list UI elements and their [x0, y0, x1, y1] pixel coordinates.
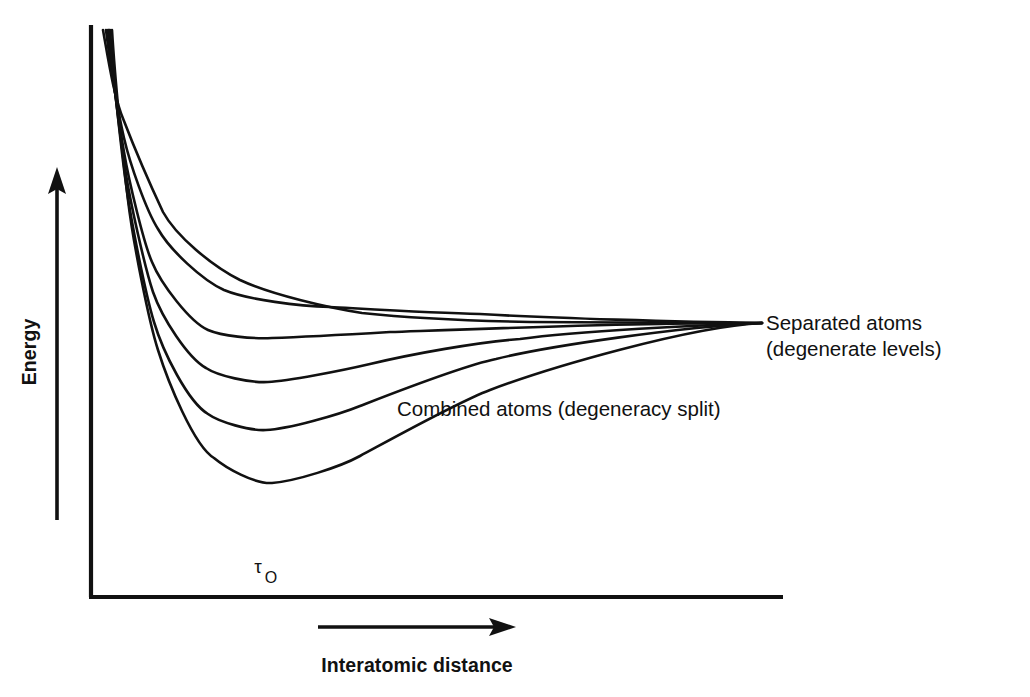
curve-level-1 — [103, 30, 762, 323]
curve-level-3 — [108, 30, 762, 338]
potential-energy-diagram: Energy Interatomic distance τ O Separate… — [0, 0, 1030, 697]
figure-page: Energy Interatomic distance τ O Separate… — [0, 0, 1030, 697]
separated-atoms-annotation: Separated atoms (degenerate levels) — [766, 311, 942, 360]
tau-subscript: O — [265, 569, 277, 586]
tau-zero-tick-label: τ O — [254, 556, 277, 586]
energy-axis-label: Energy — [18, 319, 40, 386]
separated-atoms-line-1: Separated atoms — [766, 311, 922, 334]
interatomic-distance-axis-label: Interatomic distance — [321, 654, 513, 676]
energy-arrow — [48, 167, 66, 520]
combined-atoms-annotation: Combined atoms (degeneracy split) — [397, 397, 721, 420]
tau-symbol: τ — [254, 556, 262, 577]
interatomic-distance-arrow — [318, 618, 516, 636]
axes-group — [89, 25, 783, 597]
curve-level-2 — [106, 30, 762, 323]
separated-atoms-line-2: (degenerate levels) — [766, 337, 942, 360]
